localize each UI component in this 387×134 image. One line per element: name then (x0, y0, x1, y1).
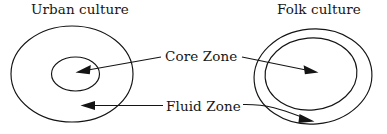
fluid-zone-right-arrowhead (298, 114, 314, 123)
core-zone-label: Core Zone (165, 50, 237, 64)
urban-culture-title: Urban culture (31, 3, 129, 17)
urban-inner-ellipse (52, 57, 100, 91)
folk-inner-ellipse (262, 34, 360, 114)
fluid-zone-leader-right (243, 104, 315, 123)
core-zone-left-arrowhead (76, 65, 91, 74)
core-zone-leader-right (242, 57, 319, 74)
folk-culture-group (250, 24, 376, 129)
urban-outer-ellipse (11, 26, 133, 122)
core-zone-right-arrowhead (304, 65, 319, 74)
urban-culture-group (11, 26, 133, 122)
diagram-canvas: Urban culture Folk culture Core Zone Flu… (0, 0, 387, 134)
folk-culture-title: Folk culture (277, 3, 361, 17)
fluid-zone-left-arrowhead (81, 101, 96, 110)
fluid-zone-label: Fluid Zone (166, 100, 241, 114)
